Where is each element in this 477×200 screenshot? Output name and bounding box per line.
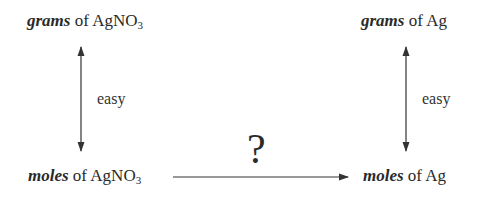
right-arrow-label: easy [422,91,450,107]
node-moles-agno3: moles of AgNO3 [28,167,141,186]
unknown-conversion-label: ? [247,128,266,170]
node-emphasis: grams [27,11,70,30]
node-substance: Ag [426,11,447,30]
node-emphasis: grams [361,11,404,30]
node-connector: of [404,166,426,185]
node-connector: of [404,11,426,30]
node-substance: AgNO [90,166,135,185]
node-subscript: 3 [138,19,144,31]
node-connector: of [70,11,92,30]
node-substance: AgNO [92,11,137,30]
node-subscript: 3 [136,174,142,186]
left-arrow-label: easy [97,91,125,107]
node-substance: Ag [425,166,446,185]
node-emphasis: moles [363,166,404,185]
node-connector: of [69,166,91,185]
node-grams-ag: grams of Ag [361,12,447,29]
node-moles-ag: moles of Ag [363,167,446,184]
node-grams-agno3: grams of AgNO3 [27,12,143,31]
node-emphasis: moles [28,166,69,185]
